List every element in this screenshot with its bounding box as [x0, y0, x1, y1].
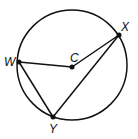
segment-wy	[19, 62, 53, 117]
label-w: W	[4, 55, 17, 69]
label-x: X	[120, 20, 130, 34]
segment-wc	[19, 62, 72, 67]
point-c	[70, 65, 75, 70]
label-y: Y	[49, 122, 58, 136]
segment-cx	[72, 35, 119, 67]
point-y	[51, 115, 56, 120]
point-w	[17, 60, 22, 65]
label-c: C	[70, 51, 79, 65]
geometry-diagram: W X Y C	[0, 0, 138, 139]
